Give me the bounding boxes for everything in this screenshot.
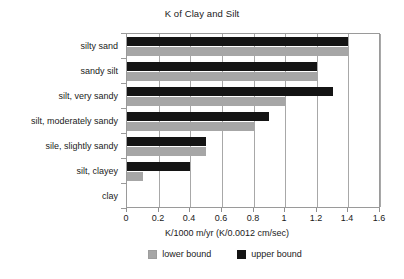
bar-group [127, 134, 379, 159]
y-axis-tick [121, 58, 126, 59]
x-axis-tick-label: 0.2 [143, 213, 173, 223]
bar-upper-bound [127, 137, 206, 146]
bar-group [127, 184, 379, 209]
x-axis-tick [379, 208, 380, 212]
x-axis-tick-label: 0.4 [174, 213, 204, 223]
x-axis-tick [284, 208, 285, 212]
x-axis-tick-label: 1.6 [364, 213, 394, 223]
x-axis-tick-label: 1.2 [301, 213, 331, 223]
y-axis-tick [121, 183, 126, 184]
legend-item-lower-bound: lower bound [148, 249, 211, 259]
y-axis-tick [121, 133, 126, 134]
bar-group [127, 84, 379, 109]
bar-upper-bound [127, 37, 348, 46]
bar-group [127, 34, 379, 59]
y-axis-label: silt, clayey [76, 166, 118, 176]
bar-lower-bound [127, 97, 285, 106]
x-axis-tick-label: 0 [111, 213, 141, 223]
y-axis-label: silt, moderately sandy [31, 116, 118, 126]
y-axis-tick [121, 158, 126, 159]
x-axis-tick [126, 208, 127, 212]
gray-square-icon [148, 250, 157, 259]
x-axis-tick [221, 208, 222, 212]
y-axis-label: silty sand [80, 41, 118, 51]
legend-label-lower-bound: lower bound [162, 249, 211, 259]
plot-area [126, 33, 380, 208]
x-axis-tick [158, 208, 159, 212]
legend-label-upper-bound: upper bound [251, 249, 302, 259]
gridline [380, 34, 381, 207]
chart-legend: lower bound upper bound [0, 249, 404, 259]
x-axis-tick [316, 208, 317, 212]
bar-group [127, 59, 379, 84]
x-axis-tick [347, 208, 348, 212]
y-axis-tick [121, 33, 126, 34]
bar-lower-bound [127, 72, 317, 81]
y-axis-tick [121, 108, 126, 109]
y-axis-label: silt, very sandy [58, 91, 118, 101]
chart-title: K of Clay and Silt [0, 8, 404, 19]
x-axis-tick [189, 208, 190, 212]
x-axis-tick [253, 208, 254, 212]
bar-chart-figure: K of Clay and Silt claysilt, clayeysile,… [0, 0, 404, 279]
bar-lower-bound [127, 147, 206, 156]
bar-group [127, 109, 379, 134]
bar-group [127, 159, 379, 184]
bar-lower-bound [127, 122, 254, 131]
y-axis-label: sandy silt [80, 66, 118, 76]
legend-item-upper-bound: upper bound [237, 249, 302, 259]
x-axis-tick-label: 0.6 [206, 213, 236, 223]
bar-upper-bound [127, 87, 333, 96]
bar-upper-bound [127, 162, 190, 171]
bars-layer [127, 34, 379, 207]
y-axis-category-labels: claysilt, clayeysile, slightly sandysilt… [0, 33, 122, 208]
x-axis-title: K/1000 m/yr (K/0.0012 cm/sec) [0, 228, 404, 238]
bar-upper-bound [127, 62, 317, 71]
x-axis-tick-label: 0.8 [238, 213, 268, 223]
y-axis-label: sile, slightly sandy [45, 141, 118, 151]
bar-lower-bound [127, 172, 143, 181]
bar-lower-bound [127, 47, 348, 56]
y-axis-tick [121, 83, 126, 84]
x-axis-tick-label: 1.4 [332, 213, 362, 223]
x-axis-tick-label: 1 [269, 213, 299, 223]
bar-upper-bound [127, 112, 269, 121]
y-axis-label: clay [102, 191, 118, 201]
black-square-icon [237, 250, 246, 259]
